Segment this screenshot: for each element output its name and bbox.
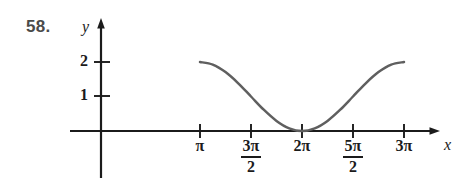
x-axis (70, 127, 440, 135)
y-tick-label-1: 1 (72, 86, 88, 104)
fraction-3pi-over-2: 3π 2 (241, 138, 262, 176)
cosine-curve (200, 62, 404, 131)
fraction-denominator: 2 (241, 158, 262, 176)
x-tick-label-2pi-text: 2π (294, 137, 311, 154)
fraction-numerator: 5π (343, 138, 364, 155)
x-axis-arrowhead (430, 127, 441, 135)
y-axis-arrowhead (97, 18, 105, 29)
y-tick-label-2: 2 (72, 52, 88, 70)
fraction-5pi-over-2: 5π 2 (343, 138, 364, 176)
x-axis-label: x (444, 136, 451, 154)
x-tick-label-pi-text: π (196, 137, 205, 154)
y-axis (97, 18, 105, 178)
exercise-figure: 58. y x 2 1 π (0, 0, 465, 189)
fraction-denominator: 2 (343, 158, 364, 176)
x-tick-label-5pi-over-2: 5π 2 (331, 138, 375, 176)
x-tick-label-2pi: 2π (280, 138, 324, 155)
x-tick-label-3pi: 3π (382, 138, 426, 155)
x-tick-label-3pi-text: 3π (396, 137, 413, 154)
x-tick-label-3pi-over-2: 3π 2 (229, 138, 273, 176)
x-tick-label-pi: π (178, 138, 222, 155)
fraction-numerator: 3π (241, 138, 262, 155)
y-axis-label: y (82, 18, 89, 36)
